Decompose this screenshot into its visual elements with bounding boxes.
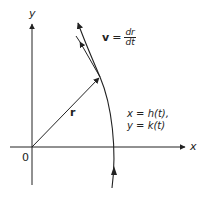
- parametric-x: x = h(t),: [127, 108, 169, 120]
- position-vector-r: [32, 78, 99, 147]
- fraction-denominator: dt: [124, 38, 135, 47]
- velocity-symbol: v: [102, 32, 109, 43]
- curve-direction-arrow: [111, 166, 117, 175]
- origin-label: 0: [22, 152, 29, 163]
- equals-sign: =: [112, 32, 121, 43]
- velocity-vector-v: [80, 42, 100, 77]
- parametric-y: y = k(t): [127, 120, 169, 132]
- velocity-equation: v = dr dt: [102, 28, 136, 47]
- derivative-fraction: dr dt: [124, 28, 135, 47]
- y-axis-label: y: [29, 8, 36, 19]
- tangent-extension: [76, 36, 80, 42]
- position-vector-label: r: [70, 107, 75, 118]
- parametric-equations: x = h(t), y = k(t): [127, 108, 169, 132]
- x-axis-label: x: [190, 141, 197, 152]
